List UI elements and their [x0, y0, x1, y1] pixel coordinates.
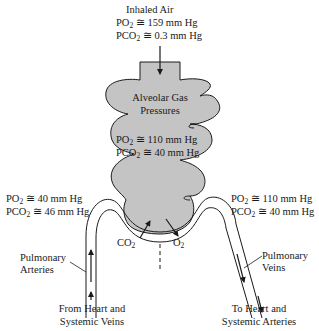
pulmonary-arteries-label-2: Arteries	[20, 264, 54, 277]
alveolar-po2: PO2 ≅ 110 mm Hg	[116, 134, 197, 147]
pulmonary-veins-label-1: Pulmonary	[262, 250, 308, 263]
arteries-leader	[70, 262, 86, 272]
to-heart-label-1: To Heart and	[204, 303, 314, 316]
arterial-po2: PO2 ≅ 110 mm Hg	[231, 193, 312, 206]
pulmonary-arteries-label-1: Pulmonary	[20, 252, 66, 265]
venous-pco2: PCO2 ≅ 46 mm Hg	[6, 206, 89, 219]
pulmonary-veins-label-2: Veins	[262, 262, 285, 275]
venous-po2: PO2 ≅ 40 mm Hg	[6, 193, 82, 206]
alveolar-title-2: Pressures	[110, 105, 210, 118]
from-heart-label-2: Systemic Veins	[42, 316, 142, 329]
alveolar-pco2: PCO2 ≅ 40 mm Hg	[116, 147, 199, 160]
inhaled-po2: PO2 ≅ 159 mm Hg	[116, 17, 198, 30]
inhaled-air-label: Inhaled Air	[126, 4, 174, 17]
gas-exchange-diagram: Inhaled Air PO2 ≅ 159 mm Hg PCO2 ≅ 0.3 m…	[0, 0, 319, 331]
from-heart-label-1: From Heart and	[42, 303, 142, 316]
co2-label: CO2	[117, 237, 135, 250]
arterial-pco2: PCO2 ≅ 40 mm Hg	[231, 206, 314, 219]
inhaled-pco2: PCO2 ≅ 0.3 mm Hg	[116, 30, 202, 43]
diagram-graphics	[0, 0, 319, 331]
to-heart-label-2: Systemic Arteries	[204, 316, 314, 329]
alveolar-title-1: Alveolar Gas	[110, 92, 210, 105]
o2-label: O2	[173, 237, 184, 250]
